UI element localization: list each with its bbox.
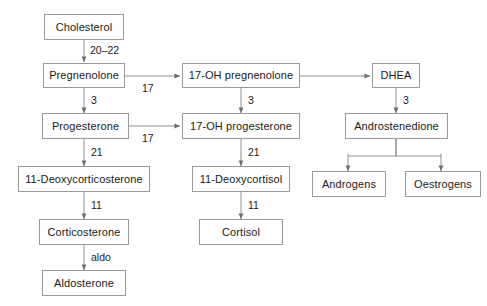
node-label: Oestrogens (414, 179, 472, 190)
node-pregnenolone: Pregnenolone (43, 63, 125, 88)
edge-label-oh-progesterone-deoxycortisol: 21 (248, 147, 260, 158)
node-label: 17-OH pregnenolone (189, 70, 294, 81)
edge-androstenedione-androgens-bend (348, 139, 396, 156)
node-androgens: Androgens (312, 171, 386, 197)
edge-label-text: 11 (248, 199, 259, 211)
node-label: Aldosterone (54, 278, 114, 289)
node-label: Progesterone (52, 121, 119, 132)
edge-label-progesterone-oh-progesterone: 17 (142, 133, 154, 144)
edge-label-text: 17 (142, 82, 154, 94)
node-17-oh-progesterone: 17-OH progesterone (182, 113, 300, 139)
edge-label-text: 20–22 (90, 44, 119, 56)
edge-label-cholesterol-pregnenolone: 20–22 (90, 45, 119, 56)
node-label: 11-Deoxycortisol (200, 174, 283, 185)
edge-label-corticosterone-aldosterone: aldo (91, 252, 111, 263)
node-label: 11-Deoxycorticosterone (25, 174, 143, 185)
edge-label-text: 11 (91, 199, 102, 211)
pathway-connectors (0, 0, 487, 306)
node-cortisol: Cortisol (199, 219, 283, 245)
node-label: Androgens (322, 179, 376, 190)
edge-label-text: 17 (142, 132, 154, 144)
edge-label-dhea-androstenedione: 3 (403, 95, 409, 106)
edge-label-pregnenolone-progesterone: 3 (91, 95, 97, 106)
node-oestrogens: Oestrogens (405, 171, 481, 197)
node-label: Androstenedione (354, 121, 439, 132)
edge-androstenedione-oestrogens-bend (396, 139, 441, 156)
edge-label-progesterone-deoxycorticosterone: 21 (91, 147, 103, 158)
node-cholesterol: Cholesterol (44, 14, 124, 40)
node-label: Cortisol (222, 227, 260, 238)
edge-label-deoxycortisol-cortisol: 11 (248, 200, 259, 211)
node-label: 17-OH progesterone (190, 121, 292, 132)
node-corticosterone: Corticosterone (39, 219, 129, 245)
edge-label-text: 21 (248, 146, 260, 158)
node-dhea: DHEA (372, 63, 420, 88)
edge-label-pregnenolone-oh-pregnenolone: 17 (142, 83, 154, 94)
edge-label-text: 3 (248, 94, 254, 106)
edge-label-text: aldo (91, 251, 111, 263)
edge-label-text: 3 (403, 94, 409, 106)
edge-label-text: 21 (91, 146, 103, 158)
node-11-deoxycorticosterone: 11-Deoxycorticosterone (18, 166, 150, 192)
node-11-deoxycortisol: 11-Deoxycortisol (192, 166, 290, 192)
node-label: Pregnenolone (49, 70, 119, 81)
node-label: DHEA (381, 70, 412, 81)
node-label: Corticosterone (48, 227, 121, 238)
node-androstenedione: Androstenedione (345, 113, 448, 139)
node-aldosterone: Aldosterone (42, 270, 126, 296)
node-17-oh-pregnenolone: 17-OH pregnenolone (182, 63, 300, 88)
edge-label-deoxycorticosterone-corticosterone: 11 (91, 200, 102, 211)
node-progesterone: Progesterone (42, 113, 129, 139)
edge-label-oh-pregnenolone-oh-progesterone: 3 (248, 95, 254, 106)
edge-label-text: 3 (91, 94, 97, 106)
steroidogenesis-pathway-diagram: Cholesterol Pregnenolone Progesterone 11… (0, 0, 487, 306)
node-label: Cholesterol (56, 22, 113, 33)
